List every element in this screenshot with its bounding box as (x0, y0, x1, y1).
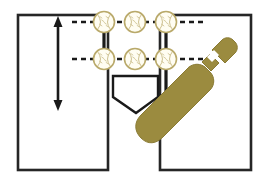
diagram-canvas: Top inside pitchTop middle pitchTop outs… (0, 0, 271, 186)
ball-top-right-icon: Top outside pitch (156, 12, 177, 33)
ball-bottom-right-icon: Low outside pitch (156, 49, 177, 70)
ball-bottom-center-icon: Low middle pitch (125, 49, 146, 70)
ball-bottom-left-icon: Low inside pitch (94, 49, 115, 70)
strike-zone-diagram: Top inside pitchTop middle pitchTop outs… (0, 0, 271, 186)
ball-top-center-icon: Top middle pitch (125, 12, 146, 33)
ball-top-left-icon: Top inside pitch (94, 12, 115, 33)
